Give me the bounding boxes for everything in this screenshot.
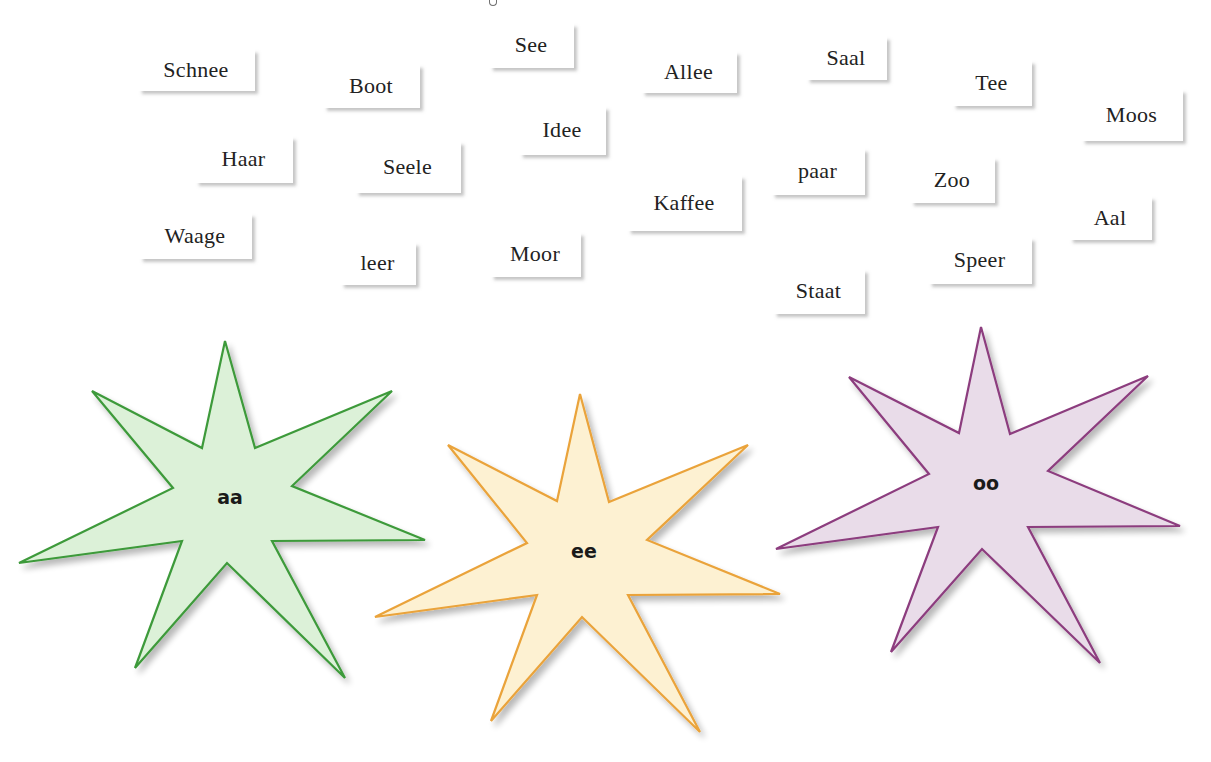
word-card-zoo[interactable]: Zoo	[909, 156, 995, 203]
word-card-tee[interactable]: Tee	[951, 59, 1032, 106]
word-card-label: Speer	[954, 247, 1006, 273]
word-card-label: Haar	[222, 146, 266, 172]
word-card-label: Kaffee	[653, 190, 714, 216]
word-card-paar[interactable]: paar	[770, 147, 865, 195]
word-card-kaffee[interactable]: Kaffee	[626, 174, 742, 231]
star-oo-label: oo	[973, 472, 999, 494]
word-card-speer[interactable]: Speer	[927, 236, 1032, 284]
star-oo[interactable]: oo	[776, 327, 1180, 663]
word-card-label: paar	[798, 158, 837, 184]
word-card-leer[interactable]: leer	[339, 241, 416, 285]
star-ee-shape[interactable]	[375, 394, 780, 732]
word-card-allee[interactable]: Allee	[640, 50, 737, 93]
word-card-label: Aal	[1094, 205, 1127, 231]
word-card-waage[interactable]: Waage	[138, 212, 252, 259]
word-card-saal[interactable]: Saal	[805, 35, 887, 80]
word-card-label: Waage	[165, 223, 226, 249]
word-card-aal[interactable]: Aal	[1068, 195, 1152, 240]
star-aa-label: aa	[217, 486, 243, 508]
word-card-boot[interactable]: Boot	[322, 63, 420, 108]
star-aa-shape[interactable]	[19, 341, 425, 678]
word-card-label: leer	[360, 250, 394, 276]
word-card-moos[interactable]: Moos	[1080, 88, 1183, 141]
word-card-idee[interactable]: Idee	[518, 105, 606, 155]
word-card-haar[interactable]: Haar	[194, 135, 293, 183]
word-card-staat[interactable]: Staat	[772, 268, 865, 314]
word-card-label: Schnee	[163, 57, 228, 83]
word-card-label: Moos	[1106, 102, 1157, 128]
word-card-seele[interactable]: Seele	[354, 140, 461, 193]
word-card-label: Staat	[796, 278, 842, 304]
star-oo-shape[interactable]	[776, 327, 1180, 663]
word-card-see[interactable]: See	[488, 22, 574, 68]
word-card-label: See	[515, 32, 548, 58]
word-card-label: Allee	[664, 59, 713, 85]
word-card-label: Tee	[975, 70, 1007, 96]
word-card-label: Boot	[349, 73, 393, 99]
word-card-label: Zoo	[934, 167, 970, 193]
star-ee-label: ee	[571, 540, 597, 562]
word-card-label: Saal	[826, 45, 865, 71]
word-card-moor[interactable]: Moor	[489, 231, 581, 277]
star-aa[interactable]: aa	[19, 341, 425, 678]
word-card-label: Moor	[510, 241, 560, 267]
word-card-schnee[interactable]: Schnee	[137, 48, 255, 91]
star-ee[interactable]: ee	[375, 394, 780, 732]
word-card-label: Idee	[542, 117, 581, 143]
word-card-label: Seele	[383, 154, 432, 180]
